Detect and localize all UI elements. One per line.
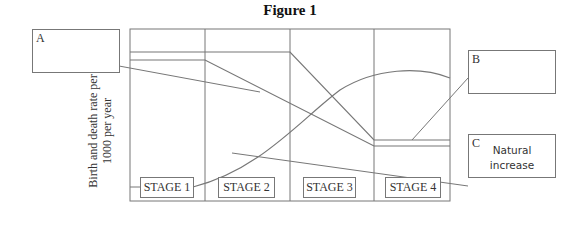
leader-line-b: [412, 78, 468, 140]
y-axis-label: Birth and death rate per 1000 per year: [86, 61, 114, 201]
callout-box-b[interactable]: B: [468, 50, 556, 94]
y-axis-label-line2: 1000 per year: [100, 61, 114, 201]
stage-label-3: STAGE 3: [303, 177, 356, 198]
callout-text-c: Natural increase: [469, 143, 555, 173]
stage-label-2: STAGE 2: [218, 177, 275, 198]
total-population-curve: [193, 71, 450, 187]
stage-label-4: STAGE 4: [385, 177, 441, 198]
stage-label-1: STAGE 1: [140, 177, 194, 198]
callout-letter-a: A: [36, 31, 45, 46]
callout-text-c-line1: Natural: [469, 143, 555, 158]
callout-box-a[interactable]: A: [32, 29, 120, 73]
callout-box-c[interactable]: C Natural increase: [468, 134, 556, 178]
callout-text-c-line2: increase: [469, 158, 555, 173]
y-axis-label-line1: Birth and death rate per: [86, 61, 100, 201]
leader-line-a: [119, 66, 260, 92]
callout-letter-b: B: [472, 52, 480, 67]
